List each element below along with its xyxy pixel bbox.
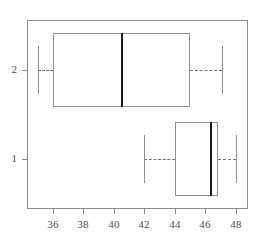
y-axis-tick-label: 2 [3, 63, 17, 75]
x-axis-tick [144, 209, 145, 214]
x-axis-tick-label: 46 [190, 218, 220, 230]
x-axis-tick-label: 48 [221, 218, 251, 230]
x-axis-tick [236, 209, 237, 214]
y-axis-tick-label: 1 [3, 152, 17, 164]
x-axis-tick-label: 40 [99, 218, 129, 230]
x-axis-tick [83, 209, 84, 214]
boxplot-figure: 36384042444648 12 [0, 0, 264, 247]
x-axis-tick-label: 42 [129, 218, 159, 230]
x-axis-tick-label: 38 [68, 218, 98, 230]
x-axis-tick [175, 209, 176, 214]
x-axis-tick-label: 44 [160, 218, 190, 230]
x-axis-tick-label: 36 [38, 218, 68, 230]
x-axis-tick [205, 209, 206, 214]
x-axis-tick [114, 209, 115, 214]
plot-frame [27, 20, 248, 209]
x-axis-tick [53, 209, 54, 214]
